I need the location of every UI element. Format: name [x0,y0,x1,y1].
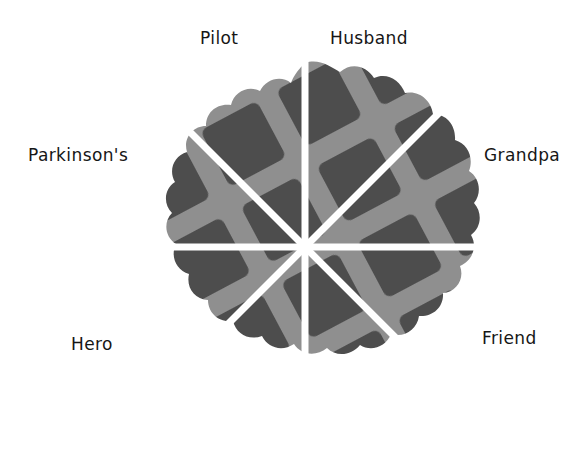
waffle-pie-chart [0,0,572,455]
slice-label-pilot: Pilot [200,30,238,47]
slice-label-friend: Friend [482,330,537,347]
figure-canvas: Pilot Husband Parkinson's Grandpa Hero F… [0,0,572,455]
slice-label-husband: Husband [330,30,408,47]
slice-label-parkinsons: Parkinson's [28,147,128,164]
slice-label-hero: Hero [71,336,113,353]
slice-label-grandpa: Grandpa [484,147,560,164]
